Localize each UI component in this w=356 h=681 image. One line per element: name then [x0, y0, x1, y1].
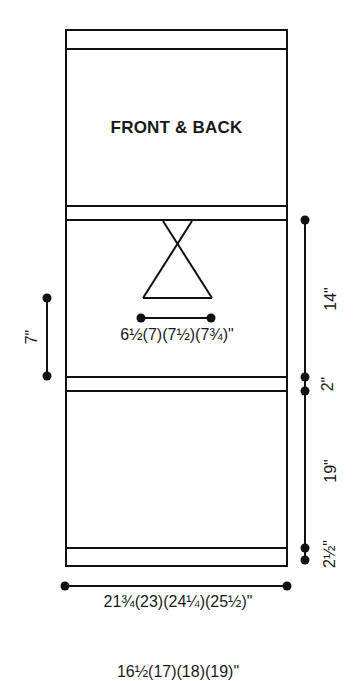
- neckline: [163, 221, 212, 298]
- right-dim-lower: 19": [322, 453, 340, 489]
- right-dim-middle: 2": [319, 372, 337, 396]
- diagram-title: FRONT & BACK: [66, 118, 287, 138]
- right-dim-top: 14": [322, 281, 340, 317]
- neck-width-label: 6½(7)(7½)(7¾)": [108, 326, 246, 344]
- width-label: 21¾(23)(24¼)(25½)": [70, 593, 286, 611]
- neckline: [143, 221, 192, 298]
- right-dim-bottom: 2½": [321, 532, 339, 576]
- left-dim-label: 7": [23, 325, 41, 349]
- bottom-partial-label: 16½(17)(18)(19)": [98, 663, 258, 681]
